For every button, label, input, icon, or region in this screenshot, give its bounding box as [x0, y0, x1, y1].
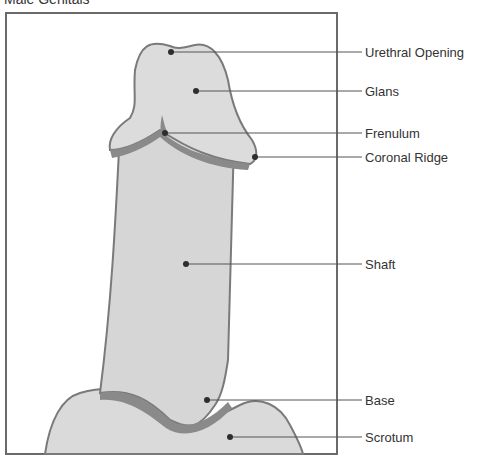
coronal-ridge-dot — [252, 154, 258, 160]
shaft-shape — [100, 130, 234, 426]
frenulum-dot — [162, 130, 168, 136]
glans-dot — [193, 88, 199, 94]
base-dot — [204, 397, 210, 403]
anatomy-illustration — [0, 0, 477, 465]
label-coronal-ridge: Coronal Ridge — [365, 150, 448, 165]
label-glans: Glans — [365, 84, 399, 99]
label-scrotum: Scrotum — [365, 430, 413, 445]
label-frenulum: Frenulum — [365, 126, 420, 141]
urethral-opening-dot — [168, 49, 174, 55]
label-base: Base — [365, 393, 395, 408]
label-shaft: Shaft — [365, 257, 395, 272]
shaft-dot — [183, 261, 189, 267]
scrotum-dot — [227, 434, 233, 440]
label-urethral-opening: Urethral Opening — [365, 45, 464, 60]
